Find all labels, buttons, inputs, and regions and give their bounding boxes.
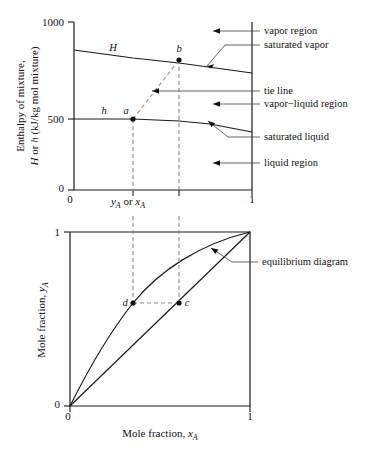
point-c-marker: [176, 300, 181, 305]
arrowhead-vapor-region: [213, 28, 220, 33]
top-ytick-label-0: 0: [59, 182, 65, 194]
annotation-tie-line: tie line: [264, 85, 293, 96]
saturated-liquid-curve: [74, 119, 252, 132]
annotation-saturated-liquid: saturated liquid: [264, 131, 330, 142]
diagonal-45-line: [70, 232, 250, 406]
top-xtick-label-1: 1: [249, 193, 255, 205]
bottom-ytick-label-0: 0: [55, 398, 61, 410]
top-chart: 1000 500 0 0 1 yA or xA Enthalpy of mixt…: [14, 16, 349, 210]
bottom-xaxis-title: Mole fraction, xA: [122, 427, 198, 442]
point-b-marker: [176, 57, 181, 62]
annotation-saturated-vapor: saturated vapor: [264, 39, 329, 50]
top-ytick-label-1000: 1000: [42, 16, 65, 28]
top-xaxis-title: yA or xA: [110, 195, 145, 210]
top-yaxis-title-line2: H or h (kJ/kg mol mixture): [28, 46, 41, 166]
top-yaxis-title-or: or: [28, 143, 40, 158]
top-xaxis-title-or: or: [121, 195, 136, 207]
bottom-xaxis-title-sub: A: [192, 433, 198, 442]
top-xtick-label-0: 0: [67, 193, 73, 205]
bottom-ytick-label-1: 1: [55, 226, 61, 238]
svg-text:yA or xA: yA or xA: [110, 195, 145, 210]
saturated-vapor-curve: [74, 50, 252, 73]
diagram-svg: 1000 500 0 0 1 yA or xA Enthalpy of mixt…: [0, 0, 390, 455]
point-d-marker: [130, 300, 135, 305]
point-a-marker: [130, 116, 135, 121]
bottom-xaxis-title-main: Mole fraction,: [122, 427, 188, 439]
point-b-label: b: [176, 43, 181, 54]
top-annotation-leaders: [152, 28, 260, 165]
top-yaxis-title-units: (kJ/kg mol mixture): [28, 46, 41, 137]
point-c-label: c: [185, 297, 190, 308]
bottom-chart: 1 0 0 1 Mole fraction, yA Mole fraction,…: [35, 216, 348, 442]
point-a-label: a: [123, 105, 128, 116]
leader-equilibrium-diagram: [211, 248, 258, 262]
annotation-equilibrium-diagram: equilibrium diagram: [262, 256, 348, 267]
label-h-curve: h: [101, 105, 106, 116]
bottom-yaxis-title: Mole fraction, yA: [35, 282, 50, 358]
bottom-xtick-label-0: 0: [65, 410, 71, 422]
annotation-vapor-region: vapor region: [264, 25, 318, 36]
figure-container: 1000 500 0 0 1 yA or xA Enthalpy of mixt…: [0, 0, 390, 455]
top-yaxis-title: Enthalpy of mixture, H or h (kJ/kg mol m…: [14, 46, 41, 166]
bottom-yaxis-title-sub: A: [41, 282, 50, 288]
arrowhead-equilibrium-diagram: [211, 248, 218, 254]
bottom-yaxis-title-main: Mole fraction,: [35, 292, 47, 358]
arrowhead-tie-line: [152, 88, 159, 93]
bottom-xtick-label-1: 1: [247, 410, 253, 422]
top-ytick-label-500: 500: [48, 113, 65, 125]
annotation-vapor-liquid-region: vapor−liquid region: [264, 98, 349, 109]
top-yaxis-title-line1: Enthalpy of mixture,: [14, 60, 26, 152]
point-d-label: d: [122, 297, 128, 308]
annotation-liquid-region: liquid region: [264, 157, 319, 168]
bottom-annotation-leaders: [211, 248, 258, 262]
arrowhead-vapor-liquid-region: [213, 101, 220, 106]
label-H-curve: H: [108, 42, 118, 53]
top-xaxis-title-xsub: A: [139, 201, 145, 210]
arrowhead-liquid-region: [213, 160, 220, 165]
